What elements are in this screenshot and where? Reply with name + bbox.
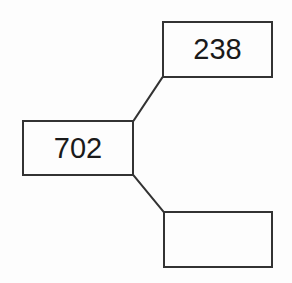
node-box-branch-top[interactable]: 238 <box>162 21 273 78</box>
node-box-branch-bottom[interactable] <box>163 211 273 268</box>
diagram-canvas: 702 238 <box>0 0 292 283</box>
node-box-root[interactable]: 702 <box>22 120 134 176</box>
node-label-branch-top: 238 <box>193 35 241 64</box>
connector-root-to-branch-top <box>134 78 162 120</box>
connector-root-to-branch-bottom <box>134 176 163 211</box>
node-label-root: 702 <box>54 134 102 163</box>
